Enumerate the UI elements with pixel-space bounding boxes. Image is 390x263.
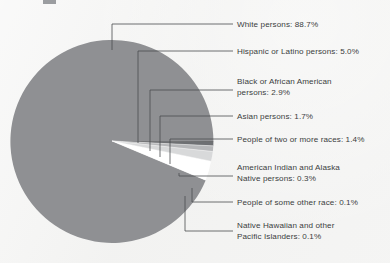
pie-slices — [10, 40, 213, 243]
callout-label-native-hawaiian-pacific-islander-line2: Pacific Islanders: 0.1% — [237, 232, 321, 241]
callout-label-black-african-american-line2: persons: 2.9% — [237, 88, 290, 97]
callout-label-american-indian-alaska-native-line1: American Indian and Alaska — [237, 163, 340, 172]
chart-canvas: White persons: 88.7% Hispanic or Latino … — [0, 0, 390, 263]
pie-chart: White persons: 88.7% Hispanic or Latino … — [0, 0, 390, 263]
callout-label-native-hawaiian-pacific-islander-line1: Native Hawaiian and other — [237, 221, 335, 230]
callout-label-asian: Asian persons: 1.7% — [237, 112, 313, 121]
callout-label-american-indian-alaska-native-line2: Native persons: 0.3% — [237, 174, 316, 183]
callout-label-two-or-more-races: People of two or more races: 1.4% — [237, 135, 364, 144]
callout-label-hispanic-latino: Hispanic or Latino persons: 5.0% — [237, 47, 359, 56]
callout-label-some-other-race: People of some other race: 0.1% — [237, 198, 358, 207]
callout-label-black-african-american-line1: Black or African American — [237, 77, 332, 86]
callout-labels: White persons: 88.7% Hispanic or Latino … — [237, 20, 364, 241]
callout-label-white-persons: White persons: 88.7% — [237, 20, 318, 29]
